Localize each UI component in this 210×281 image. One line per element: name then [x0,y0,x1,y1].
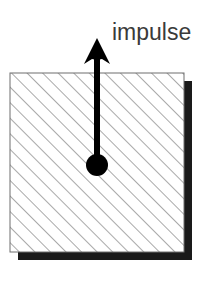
impulse-arrow-shaft [94,58,100,166]
shadow-right [184,81,192,260]
figure-canvas: impulse [0,0,210,281]
shadow-bottom [18,252,192,260]
center-of-mass-dot [86,154,108,176]
impulse-label: impulse [112,19,191,45]
impulse-diagram: impulse [0,0,210,281]
